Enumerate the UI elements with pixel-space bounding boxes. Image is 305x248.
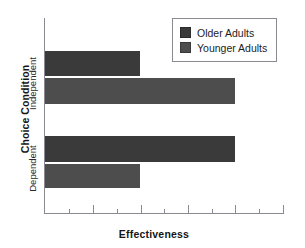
x-axis-tick-minor — [259, 209, 260, 214]
y-axis-category-label-dependent: Dependent — [27, 129, 38, 209]
bar-independent-younger-adults — [45, 78, 235, 104]
x-axis-title: Effectiveness — [44, 228, 264, 240]
x-axis-tick-minor — [117, 209, 118, 214]
legend-item-older-adults: Older Adults — [180, 25, 267, 40]
x-axis-tick-major — [235, 205, 236, 213]
legend-label-younger-adults: Younger Adults — [197, 42, 267, 54]
x-axis-line — [44, 213, 284, 214]
x-axis-tick-minor — [212, 209, 213, 214]
legend: Older Adults Younger Adults — [172, 18, 277, 62]
bar-independent-older-adults — [45, 51, 140, 76]
y-axis-category-label-independent: Independent — [27, 44, 38, 124]
x-axis-tick-major — [93, 205, 94, 213]
x-axis-tick-minor — [69, 209, 70, 214]
x-axis-tick-major — [188, 205, 189, 213]
clipped-header-text-remnant — [4, 0, 204, 4]
legend-swatch-younger-adults — [180, 42, 191, 53]
x-axis-tick-major — [283, 205, 284, 213]
legend-swatch-older-adults — [180, 27, 191, 38]
bar-dependent-older-adults — [45, 136, 235, 162]
x-axis-tick-major — [141, 205, 142, 213]
legend-label-older-adults: Older Adults — [197, 27, 254, 39]
legend-item-younger-adults: Younger Adults — [180, 40, 267, 55]
bar-dependent-younger-adults — [45, 164, 140, 188]
x-axis-tick-minor — [164, 209, 165, 214]
bar-chart: Choice Condition Effectiveness Independe… — [0, 0, 305, 248]
